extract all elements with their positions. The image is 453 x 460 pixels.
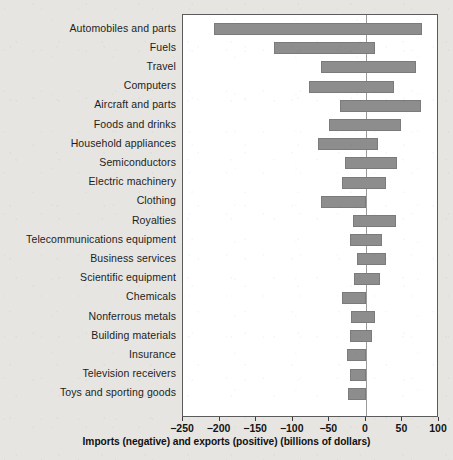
bar-row [183,97,437,116]
category-label: Chemicals [126,290,176,302]
axis-tick [182,417,183,421]
category-label: Nonferrous metals [89,310,176,322]
axis-tick [438,417,439,421]
category-label: Scientific equipment [80,271,176,283]
axis-tick [365,417,366,421]
category-label: Television receivers [82,367,176,379]
bar [350,330,372,342]
bar [274,42,375,54]
category-label: Telecommunications equipment [26,233,176,245]
plot-frame [182,14,438,417]
axis-tick-label: 0 [362,422,368,434]
bar [214,23,422,35]
category-label: Travel [147,60,176,72]
bar-row [183,78,437,97]
axis-tick [328,417,329,421]
axis-tick [255,417,256,421]
bar-row [183,58,437,77]
bar-row [183,270,437,289]
axis-tick-label: 50 [396,422,408,434]
bar [309,81,394,93]
axis-tick-label: −50 [319,422,337,434]
category-label: Toys and sporting goods [60,386,176,398]
category-label: Fuels [150,41,176,53]
bar-row [183,308,437,327]
bar [351,311,375,323]
category-label: Royalties [132,214,176,226]
bar [350,369,366,381]
bar-row [183,193,437,212]
chart-figure: Automobiles and partsFuelsTravelComputer… [8,8,445,452]
axis-tick [292,417,293,421]
bar [321,61,416,73]
axis-tick-label: −100 [280,422,304,434]
category-label: Automobiles and parts [69,22,176,34]
bar [348,388,366,400]
bar [342,292,365,304]
bar [353,215,396,227]
category-label: Aircraft and parts [94,98,176,110]
bar-row [183,366,437,385]
bar-row [183,250,437,269]
bar-row [183,39,437,58]
category-label: Semiconductors [99,156,176,168]
bar-row [183,116,437,135]
category-label: Insurance [129,348,176,360]
chart-page: Automobiles and partsFuelsTravelComputer… [0,0,453,460]
bar [347,349,366,361]
bar-row [183,289,437,308]
category-label: Computers [124,79,176,91]
category-label: Foods and drinks [94,118,176,130]
bar [345,157,396,169]
axis-tick-label: 100 [429,422,447,434]
bar-row [183,212,437,231]
axis-tick-label: −150 [243,422,267,434]
category-label: Building materials [91,329,176,341]
category-label: Electric machinery [88,175,176,187]
bar [340,100,421,112]
bar-row [183,174,437,193]
category-label: Clothing [137,194,176,206]
bar [342,177,386,189]
axis-tick-label: −200 [207,422,231,434]
x-axis-title: Imports (negative) and exports (positive… [8,436,445,447]
bar [321,196,366,208]
bar-row [183,231,437,250]
bar [357,253,386,265]
value-axis: −250−200−150−100−50050100 [182,417,438,437]
bar [354,273,380,285]
bar-row [183,346,437,365]
category-label: Business services [90,252,176,264]
bar [329,119,401,131]
bar [318,138,377,150]
bar-series-group [183,15,437,416]
axis-tick [219,417,220,421]
bar-row [183,135,437,154]
bar-row [183,385,437,404]
axis-tick-label: −250 [170,422,194,434]
bar [350,234,382,246]
bar-row [183,327,437,346]
bar-row [183,154,437,173]
axis-tick [401,417,402,421]
category-label: Household appliances [71,137,176,149]
bar-row [183,20,437,39]
